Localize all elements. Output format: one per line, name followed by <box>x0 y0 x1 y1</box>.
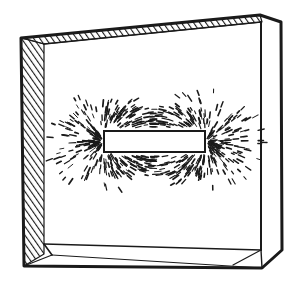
bar-magnet <box>104 131 205 152</box>
illustration <box>0 0 299 285</box>
magnet-box-drawing <box>0 0 299 285</box>
